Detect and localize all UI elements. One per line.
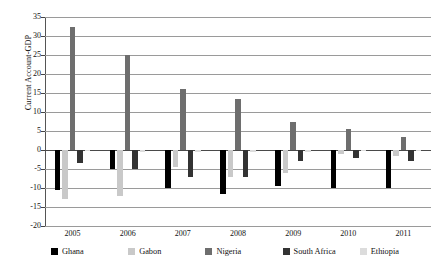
x-tick-label-2009: 2009 (266, 229, 321, 238)
bar-gabon-2006 (117, 150, 123, 196)
gridline-25 (45, 55, 431, 56)
bar-gabon-2010 (338, 150, 344, 154)
bar-ghana-2010 (331, 150, 337, 188)
legend-swatch-icon (205, 248, 212, 255)
y-tick-label: -10 (15, 184, 41, 192)
y-tick-label: -20 (15, 222, 41, 230)
bar-gabon-2005 (62, 150, 68, 199)
y-tick-label: 5 (15, 127, 41, 135)
y-tick-label: 0 (15, 146, 41, 154)
gridline-35 (45, 17, 431, 18)
gridline-15 (45, 93, 431, 94)
bar-south-africa-2006 (132, 150, 138, 169)
gridline--10 (45, 188, 431, 189)
bar-ghana-2009 (275, 150, 281, 186)
bar-ghana-2006 (110, 150, 116, 169)
bar-nigeria-2007 (180, 89, 186, 150)
y-tick-mark (41, 150, 45, 151)
bar-ethiopia-2008 (250, 150, 256, 152)
bar-chart: Current Account-GDP 35302520151050-5-10-… (0, 0, 439, 274)
bar-south-africa-2007 (188, 150, 194, 177)
bar-ethiopia-2010 (361, 150, 367, 151)
bar-south-africa-2009 (298, 150, 304, 161)
y-tick-mark (41, 93, 45, 94)
y-tick-mark (41, 55, 45, 56)
legend-item-south-africa[interactable]: South Africa (283, 247, 336, 256)
y-axis-tick-labels: 35302520151050-5-10-15-20 (9, 17, 41, 226)
y-tick-label: 35 (15, 13, 41, 21)
bar-nigeria-2009 (290, 122, 296, 151)
legend-swatch-icon (283, 248, 290, 255)
bar-ghana-2007 (165, 150, 171, 188)
x-tick-label-2008: 2008 (210, 229, 265, 238)
bar-ethiopia-2011 (416, 150, 422, 151)
legend-label: Nigeria (216, 247, 241, 256)
bar-gabon-2007 (173, 150, 179, 167)
x-tick-label-2007: 2007 (155, 229, 210, 238)
x-tick-label-2010: 2010 (321, 229, 376, 238)
legend-item-ghana[interactable]: Ghana (51, 247, 84, 256)
legend-item-ethiopia[interactable]: Ethiopia (360, 247, 399, 256)
gridline-0 (45, 150, 431, 151)
y-tick-mark (41, 36, 45, 37)
bar-ghana-2005 (55, 150, 61, 190)
legend-swatch-icon (128, 248, 135, 255)
bar-south-africa-2010 (353, 150, 359, 158)
bar-gabon-2009 (283, 150, 289, 173)
bar-nigeria-2006 (125, 55, 131, 150)
gridline-20 (45, 74, 431, 75)
bar-nigeria-2011 (401, 137, 407, 150)
legend-label: South Africa (294, 247, 336, 256)
bar-ethiopia-2005 (85, 150, 91, 151)
y-tick-label: 20 (15, 70, 41, 78)
y-tick-mark (41, 169, 45, 170)
bar-ghana-2011 (386, 150, 392, 188)
legend-item-nigeria[interactable]: Nigeria (205, 247, 241, 256)
bar-nigeria-2005 (70, 27, 76, 151)
legend-label: Ghana (62, 247, 84, 256)
y-tick-mark (41, 207, 45, 208)
y-tick-label: 15 (15, 89, 41, 97)
y-tick-label: -5 (15, 165, 41, 173)
bar-south-africa-2005 (77, 150, 83, 163)
bar-south-africa-2011 (408, 150, 414, 161)
bar-ghana-2008 (220, 150, 226, 194)
bar-gabon-2008 (228, 150, 234, 177)
y-tick-mark (41, 112, 45, 113)
bar-ethiopia-2007 (195, 150, 201, 152)
y-tick-mark (41, 131, 45, 132)
legend-label: Gabon (139, 247, 161, 256)
legend-swatch-icon (51, 248, 58, 255)
y-tick-label: 10 (15, 108, 41, 116)
y-tick-mark (41, 226, 45, 227)
y-tick-label: -15 (15, 203, 41, 211)
bar-gabon-2011 (393, 150, 399, 156)
bar-nigeria-2010 (346, 129, 352, 150)
y-tick-label: 25 (15, 51, 41, 59)
legend-item-gabon[interactable]: Gabon (128, 247, 161, 256)
y-tick-mark (41, 17, 45, 18)
y-tick-mark (41, 74, 45, 75)
y-tick-mark (41, 188, 45, 189)
legend-label: Ethiopia (371, 247, 399, 256)
gridline--15 (45, 207, 431, 208)
x-tick-label-2011: 2011 (376, 229, 431, 238)
gridline--20 (45, 226, 431, 227)
plot-area (45, 17, 431, 226)
y-tick-label: 30 (15, 32, 41, 40)
legend-swatch-icon (360, 248, 367, 255)
x-tick-label-2006: 2006 (100, 229, 155, 238)
bar-ethiopia-2006 (140, 150, 146, 152)
chart-legend: GhanaGabonNigeriaSouth AfricaEthiopia (45, 247, 431, 267)
bar-nigeria-2008 (235, 99, 241, 150)
bar-south-africa-2008 (243, 150, 249, 177)
gridline--5 (45, 169, 431, 170)
x-tick-label-2005: 2005 (45, 229, 100, 238)
bar-ethiopia-2009 (305, 150, 311, 152)
gridline-30 (45, 36, 431, 37)
